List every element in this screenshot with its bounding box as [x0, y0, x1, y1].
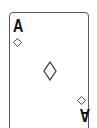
rank-top-left: A: [13, 16, 23, 35]
rank-bottom-right: A: [80, 106, 90, 125]
diamond-icon: [13, 38, 22, 47]
playing-card-ace-of-diamonds[interactable]: A A: [9, 12, 89, 128]
diamond-icon: [77, 96, 86, 105]
diamond-icon: [43, 61, 57, 81]
